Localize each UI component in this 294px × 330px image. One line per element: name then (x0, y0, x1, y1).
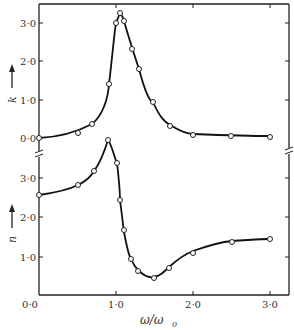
optical-constants-chart: 0·0 1·0 2·0 3·0 1·0 2·0 3·0 0·0 1·0 2·0 … (0, 0, 294, 330)
svg-text:2·0: 2·0 (20, 212, 36, 223)
k-curve (39, 13, 270, 138)
svg-text:0: 0 (172, 320, 177, 329)
x-axis-label: ω/ω 0 (140, 313, 177, 329)
arrow-up-icon (9, 64, 15, 72)
n-curve (39, 140, 270, 277)
arrow-up-icon (9, 204, 15, 212)
svg-text:2·0: 2·0 (20, 56, 36, 67)
svg-text:1·0: 1·0 (108, 299, 124, 310)
svg-text:1·0: 1·0 (20, 95, 36, 106)
svg-text:ω/ω: ω/ω (140, 313, 164, 327)
tick-marks (39, 4, 289, 295)
svg-text:3·0: 3·0 (20, 173, 36, 184)
k-data-points (37, 11, 273, 141)
svg-text:0·0: 0·0 (20, 133, 36, 144)
n-data-points (37, 138, 273, 281)
axis-break-icon (35, 147, 293, 157)
plot-frame (39, 4, 289, 295)
svg-text:3·0: 3·0 (20, 18, 36, 29)
x-tick-labels: 0·0 1·0 2·0 3·0 (22, 299, 278, 310)
svg-text:k: k (6, 96, 19, 103)
n-axis-label: n (6, 204, 19, 243)
n-tick-labels: 1·0 2·0 3·0 (20, 173, 36, 263)
svg-text:n: n (6, 236, 19, 243)
svg-text:0·0: 0·0 (22, 299, 38, 310)
k-tick-labels: 0·0 1·0 2·0 3·0 (20, 18, 36, 144)
svg-text:3·0: 3·0 (262, 299, 278, 310)
svg-text:1·0: 1·0 (20, 252, 36, 263)
k-axis-label: k (6, 64, 19, 103)
svg-text:2·0: 2·0 (185, 299, 201, 310)
